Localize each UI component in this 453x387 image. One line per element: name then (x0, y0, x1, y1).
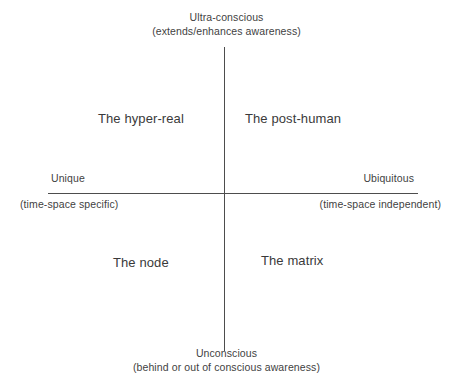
vertical-axis-top-pole-sublabel: (extends/enhances awareness) (0, 25, 453, 39)
quadrant-diagram-canvas: Ultra-conscious (extends/enhances awaren… (0, 0, 453, 387)
horizontal-axis-left-pole-sublabel: (time-space specific) (20, 198, 118, 210)
quadrant-label-top-left: The hyper-real (98, 111, 184, 126)
vertical-axis-line (224, 47, 225, 351)
horizontal-axis-line (48, 193, 418, 194)
horizontal-axis-right-pole-sublabel: (time-space independent) (320, 198, 441, 210)
vertical-axis-bottom-pole: Unconscious (behind or out of conscious … (0, 347, 453, 374)
vertical-axis-top-pole: Ultra-conscious (extends/enhances awaren… (0, 11, 453, 38)
quadrant-label-bottom-left: The node (113, 255, 169, 270)
quadrant-label-bottom-right: The matrix (261, 253, 323, 268)
horizontal-axis-left-pole-label: Unique (51, 172, 85, 184)
horizontal-axis-right-pole-label: Ubiquitous (363, 172, 414, 184)
quadrant-label-top-right: The post-human (245, 111, 341, 126)
vertical-axis-top-pole-label: Ultra-conscious (0, 11, 453, 25)
vertical-axis-bottom-pole-label: Unconscious (0, 347, 453, 361)
vertical-axis-bottom-pole-sublabel: (behind or out of conscious awareness) (0, 361, 453, 375)
